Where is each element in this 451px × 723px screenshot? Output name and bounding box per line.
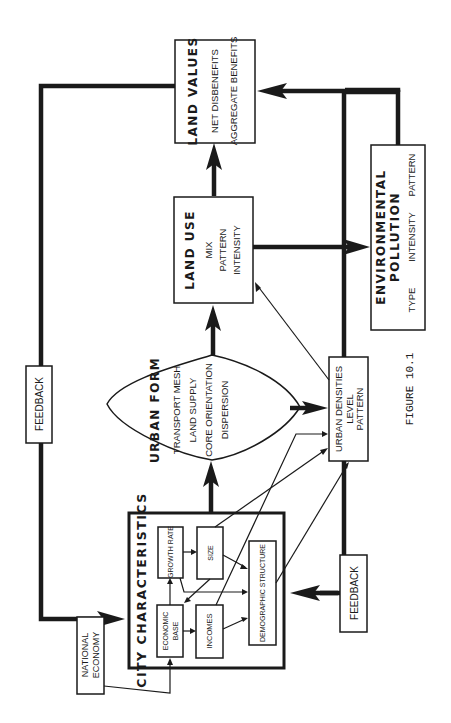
- economic-base-box: ECONOMIC BASE: [157, 605, 183, 657]
- svg-text:LAND USE: LAND USE: [183, 210, 197, 290]
- arrow-landuse-to-landvalues: [206, 143, 222, 196]
- svg-text:DEMOGRAPHIC STRUCTURE: DEMOGRAPHIC STRUCTURE: [259, 544, 266, 642]
- svg-text:LAND SUPPLY: LAND SUPPLY: [187, 377, 198, 442]
- feedback-box-bottom: FEEDBACK: [340, 555, 367, 632]
- growth-rate-box: GROWTH RATE: [158, 526, 183, 578]
- flow-diagram: FEEDBACK FEEDBACK LAND VALUES NET DISBEN…: [0, 0, 451, 723]
- land-use-box: LAND USE MIX PATTERN INTENSITY: [174, 197, 253, 303]
- svg-text:CORE ORIENTATION: CORE ORIENTATION: [203, 363, 214, 457]
- arrow-densities-to-landuse: [255, 282, 329, 380]
- svg-text:PATTERN: PATTERN: [406, 153, 417, 196]
- svg-text:DISPERSION: DISPERSION: [219, 381, 230, 440]
- svg-text:MIX: MIX: [203, 241, 214, 259]
- feedback-box-top: FEEDBACK: [26, 366, 52, 443]
- arrow-urbanform-to-landuse: [205, 305, 221, 355]
- environmental-pollution-box: ENVIRONMENTAL POLLUTION TYPE INTENSITY P…: [371, 145, 425, 330]
- arrow-city-to-urbanform: [203, 461, 219, 512]
- svg-text:ENVIRONMENTAL: ENVIRONMENTAL: [374, 169, 388, 304]
- svg-text:AGGREGATE BENEFITS: AGGREGATE BENEFITS: [228, 37, 239, 146]
- svg-text:INCOMES: INCOMES: [205, 613, 214, 648]
- svg-text:TYPE: TYPE: [406, 288, 417, 313]
- land-values-box: LAND VALUES NET DISBENEFITS AGGREGATE BE…: [175, 36, 255, 145]
- national-economy-box: NATIONAL ECONOMY: [77, 617, 104, 694]
- svg-text:URBAN DENSITIES: URBAN DENSITIES: [333, 366, 344, 452]
- svg-text:TRANSPORT MESH: TRANSPORT MESH: [171, 366, 182, 454]
- figure-caption: FIGURE 10.1: [404, 352, 416, 425]
- svg-text:INTENSITY: INTENSITY: [231, 225, 242, 275]
- urban-form-lens: URBAN FORM TRANSPORT MESH LAND SUPPLY CO…: [107, 355, 300, 463]
- svg-text:ECONOMIC: ECONOMIC: [162, 612, 169, 651]
- svg-text:LAND VALUES: LAND VALUES: [186, 36, 200, 145]
- svg-text:POLLUTION: POLLUTION: [388, 192, 402, 282]
- svg-text:BASE: BASE: [172, 621, 179, 640]
- svg-text:PATTERN: PATTERN: [217, 228, 228, 271]
- svg-text:URBAN FORM: URBAN FORM: [148, 357, 162, 463]
- arrow-to-land-values-right: [257, 83, 398, 99]
- incomes-box: INCOMES: [196, 605, 223, 658]
- svg-text:ECONOMY: ECONOMY: [91, 632, 101, 679]
- size-box: SIZE: [197, 527, 223, 579]
- svg-text:NET DISBENEFITS: NET DISBENEFITS: [209, 49, 220, 133]
- arrowhead-icon: [255, 282, 261, 292]
- svg-text:FEEDBACK: FEEDBACK: [34, 377, 45, 431]
- arrow-landuse-to-pollution: [253, 239, 370, 255]
- svg-text:PATTERN: PATTERN: [354, 387, 365, 430]
- svg-text:NATIONAL: NATIONAL: [80, 633, 90, 677]
- svg-text:CITY CHARACTERISTICS: CITY CHARACTERISTICS: [134, 492, 149, 687]
- demographic-structure-box: DEMOGRAPHIC STRUCTURE: [249, 541, 276, 645]
- svg-text:SIZE: SIZE: [207, 545, 214, 561]
- urban-densities-box: URBAN DENSITIES LEVEL PATTERN: [329, 357, 368, 461]
- svg-text:INTENSITY: INTENSITY: [406, 212, 417, 262]
- svg-text:GROWTH RATE: GROWTH RATE: [167, 526, 174, 578]
- svg-text:FEEDBACK: FEEDBACK: [349, 566, 360, 620]
- city-characteristics-box: CITY CHARACTERISTICS GROWTH RATE SIZE EC…: [129, 492, 284, 687]
